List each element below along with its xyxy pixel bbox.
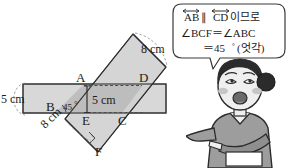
- bubble-line1-parallel: ∥: [201, 11, 207, 24]
- bubble-line-2: ∠BCF＝∠ABC: [181, 27, 255, 39]
- angle-label-45: 45: [63, 102, 73, 112]
- bubble-line1-tail: 이므로: [230, 11, 260, 23]
- teacher-character: [186, 56, 289, 168]
- bubble-line3-equals: ＝45: [203, 42, 226, 54]
- geometry-illustration-page: A B C D E F 5 cm 5 cm 8 cm 8 cm 45 ° AB …: [0, 0, 289, 168]
- character-arm-left: [186, 128, 216, 141]
- character-cheek-left: [218, 88, 228, 94]
- vertex-label-A: A: [76, 70, 86, 85]
- vertex-label-F: F: [95, 144, 102, 159]
- vertex-label-D: D: [139, 70, 148, 85]
- character-pupil-left: [230, 79, 233, 82]
- character-cheek-right: [252, 88, 262, 94]
- dimension-label-topright-8cm: 8 cm: [141, 42, 165, 56]
- dimension-label-left-5cm: 5 cm: [1, 92, 25, 106]
- bubble-line3-degree: °: [232, 42, 235, 50]
- geometry-figure: A B C D E F 5 cm 5 cm 8 cm 8 cm 45 °: [0, 0, 182, 168]
- bubble-line-1: AB ∥ CD 이므로: [183, 9, 260, 24]
- angle-degree-symbol: °: [74, 99, 78, 109]
- bubble-line3-paren: (엇각): [237, 42, 265, 55]
- vertex-label-C: C: [118, 113, 127, 128]
- character-paper: [226, 152, 262, 166]
- character-pupil-right: [248, 79, 251, 82]
- vertex-label-E: E: [82, 113, 90, 128]
- character-hair-bun: [257, 73, 275, 91]
- dimension-label-interior-5cm: 5 cm: [92, 93, 116, 107]
